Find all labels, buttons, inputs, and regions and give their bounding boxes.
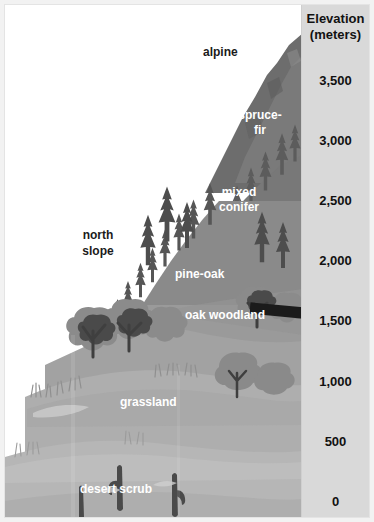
elevation-tick-2500: 2,500 xyxy=(302,193,369,208)
mountain-illustration: alpine spruce- fir mixed conifer pine-oa… xyxy=(5,5,303,518)
figure-frame: alpine spruce- fir mixed conifer pine-oa… xyxy=(4,4,370,518)
elevation-tick-0: 0 xyxy=(302,494,369,509)
elevation-scale-panel: Elevation (meters) 3,500 3,000 2,500 2,0… xyxy=(301,5,369,518)
zone-label-spruce-fir-line2: fir xyxy=(227,123,293,138)
zone-label-mixed-conifer: mixed conifer xyxy=(201,185,277,215)
zone-label-oak-woodland: oak woodland xyxy=(185,308,265,322)
elevation-scale-title: Elevation (meters) xyxy=(302,11,369,43)
elevation-tick-1000: 1,000 xyxy=(302,374,369,389)
elevation-tick-3500: 3,500 xyxy=(302,73,369,88)
elevation-scale-units: (meters) xyxy=(302,27,369,43)
zone-label-spruce-fir: spruce- fir xyxy=(227,108,293,138)
zone-label-pine-oak: pine-oak xyxy=(175,267,224,281)
zone-label-mixed-conifer-line2: conifer xyxy=(201,200,277,215)
annotation-north-slope-line2: slope xyxy=(68,243,128,259)
annotation-north-slope: north slope xyxy=(68,227,128,259)
zone-label-grassland: grassland xyxy=(120,395,177,409)
elevation-tick-1500: 1,500 xyxy=(302,313,369,328)
zone-label-mixed-conifer-line1: mixed xyxy=(222,185,257,199)
annotation-north-slope-line1: north xyxy=(83,228,114,242)
elevation-tick-3000: 3,000 xyxy=(302,133,369,148)
zone-label-spruce-fir-line1: spruce- xyxy=(238,108,281,122)
elevation-tick-2000: 2,000 xyxy=(302,253,369,268)
figure-root: alpine spruce- fir mixed conifer pine-oa… xyxy=(0,0,374,522)
zone-label-alpine: alpine xyxy=(203,45,238,59)
elevation-scale-title-text: Elevation xyxy=(307,11,365,26)
elevation-tick-500: 500 xyxy=(302,434,369,449)
zone-label-desert-scrub: desert scrub xyxy=(80,482,152,496)
